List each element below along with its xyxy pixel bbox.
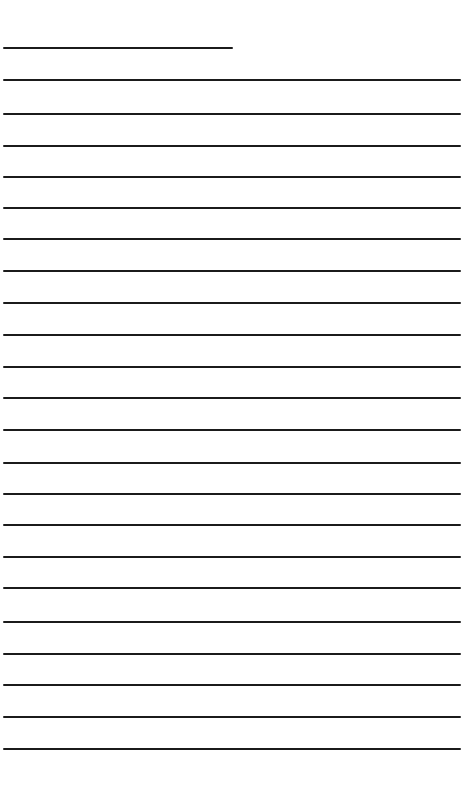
writing-row-1[interactable] [0, 0, 473, 47]
writing-row-10[interactable] [0, 304, 473, 334]
writing-row-11[interactable] [0, 336, 473, 366]
writing-row-8[interactable] [0, 240, 473, 270]
writing-row-23[interactable] [0, 718, 473, 748]
writing-row-3[interactable] [0, 81, 473, 113]
writing-row-4[interactable] [0, 115, 473, 145]
writing-row-21[interactable] [0, 655, 473, 684]
writing-row-5[interactable] [0, 147, 473, 176]
writing-row-19[interactable] [0, 589, 473, 621]
writing-row-12[interactable] [0, 368, 473, 397]
writing-row-20[interactable] [0, 623, 473, 653]
rule-23 [3, 748, 461, 750]
writing-row-13[interactable] [0, 399, 473, 429]
writing-row-22[interactable] [0, 686, 473, 716]
writing-row-9[interactable] [0, 272, 473, 302]
writing-row-14[interactable] [0, 431, 473, 462]
writing-row-18[interactable] [0, 558, 473, 587]
writing-row-15[interactable] [0, 464, 473, 493]
writing-row-2[interactable] [0, 49, 473, 79]
writing-row-7[interactable] [0, 209, 473, 238]
lined-writing-sheet [0, 0, 473, 802]
writing-row-16[interactable] [0, 495, 473, 524]
writing-row-17[interactable] [0, 526, 473, 556]
writing-row-6[interactable] [0, 178, 473, 207]
